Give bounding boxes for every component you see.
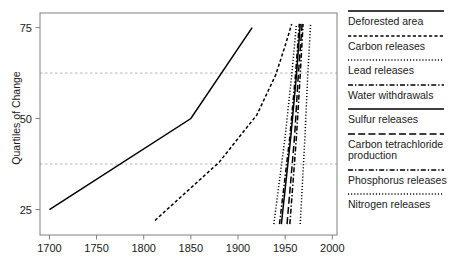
legend-entry[interactable]: Nitrogen releases [348, 189, 448, 211]
series-line [287, 24, 302, 224]
legend-entry[interactable]: Deforested area [348, 6, 448, 28]
legend-entry[interactable]: Phosphorus releases [348, 165, 448, 187]
legend-entry[interactable]: Lead releases [348, 55, 448, 77]
series-line [49, 28, 252, 210]
chart-figure: Quartiles of Change 17001750180018501900… [0, 0, 450, 276]
legend-line-sample [348, 104, 444, 113]
legend-line-sample [348, 31, 444, 40]
legend-entry[interactable]: Carbon releases [348, 31, 448, 53]
chart-legend: Deforested areaCarbon releasesLead relea… [348, 6, 448, 214]
legend-line-sample [348, 189, 444, 198]
legend-line-sample [348, 80, 444, 89]
legend-line-sample [348, 165, 444, 174]
legend-line-sample [348, 6, 444, 15]
legend-label: Carbon tetrachloride production [348, 138, 448, 162]
legend-entry[interactable]: Water withdrawals [348, 80, 448, 102]
legend-entry[interactable]: Carbon tetrachloride production [348, 129, 448, 162]
series-line [155, 24, 292, 221]
legend-label: Deforested area [348, 15, 448, 28]
legend-label: Lead releases [348, 64, 448, 77]
series-lines [49, 24, 310, 224]
legend-label: Sulfur releases [348, 113, 448, 126]
legend-label: Phosphorus releases [348, 174, 448, 187]
legend-label: Nitrogen releases [348, 198, 448, 211]
legend-line-sample [348, 55, 444, 64]
legend-label: Water withdrawals [348, 89, 448, 102]
legend-line-sample [348, 129, 444, 138]
legend-label: Carbon releases [348, 40, 448, 53]
legend-entry[interactable]: Sulfur releases [348, 104, 448, 126]
